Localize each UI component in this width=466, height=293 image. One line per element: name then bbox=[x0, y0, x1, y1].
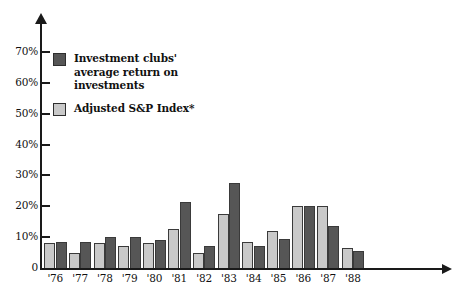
bar-sp-index bbox=[292, 206, 303, 268]
y-axis-label: 50% bbox=[2, 108, 38, 118]
y-axis-label-wrap: 40% bbox=[0, 139, 38, 149]
legend-item-investment-clubs: Investment clubs' average return on inve… bbox=[53, 52, 268, 93]
bar-sp-index bbox=[168, 229, 179, 268]
y-axis-label-wrap: 30% bbox=[0, 169, 38, 179]
bar-investment-clubs bbox=[229, 183, 240, 268]
bar-group bbox=[317, 22, 342, 268]
bar-investment-clubs bbox=[105, 237, 116, 268]
bar-group bbox=[342, 22, 367, 268]
bar-group bbox=[292, 22, 317, 268]
bar-chart: 70%60%50%40%30%20%10%0 '76'77'78'79'80'8… bbox=[0, 0, 466, 293]
bar-sp-index bbox=[118, 246, 129, 268]
legend-item-sp-index: Adjusted S&P Index* bbox=[53, 102, 268, 116]
y-axis-label: 30% bbox=[2, 169, 38, 179]
bar-investment-clubs bbox=[279, 239, 290, 268]
bar-investment-clubs bbox=[353, 251, 364, 268]
y-axis-label-wrap: 10% bbox=[0, 231, 38, 241]
legend: Investment clubs' average return on inve… bbox=[53, 52, 268, 125]
bar-sp-index bbox=[342, 248, 353, 268]
bar-sp-index bbox=[94, 243, 105, 268]
y-axis-label: 40% bbox=[2, 139, 38, 149]
bar-investment-clubs bbox=[204, 246, 215, 268]
bar-investment-clubs bbox=[304, 206, 315, 268]
legend-swatch-light-icon bbox=[53, 103, 66, 116]
y-axis-label-wrap: 20% bbox=[0, 200, 38, 210]
bar-sp-index bbox=[242, 242, 253, 268]
bar-investment-clubs bbox=[328, 226, 339, 268]
legend-swatch-dark-icon bbox=[53, 53, 66, 66]
bar-investment-clubs bbox=[130, 237, 141, 268]
y-axis-label-wrap: 50% bbox=[0, 108, 38, 118]
bar-group bbox=[267, 22, 292, 268]
bar-sp-index bbox=[193, 253, 204, 268]
bar-sp-index bbox=[317, 206, 328, 268]
y-axis-label: 20% bbox=[2, 200, 38, 210]
bar-sp-index bbox=[218, 214, 229, 268]
y-axis-label-wrap: 0 bbox=[0, 262, 38, 272]
bar-investment-clubs bbox=[155, 240, 166, 268]
bar-sp-index bbox=[267, 231, 278, 268]
y-axis-label: 60% bbox=[2, 77, 38, 87]
legend-label-sp-index: Adjusted S&P Index* bbox=[74, 102, 194, 116]
y-axis-label-wrap: 70% bbox=[0, 46, 38, 56]
legend-label-investment-clubs: Investment clubs' average return on inve… bbox=[74, 52, 178, 93]
bar-investment-clubs bbox=[254, 246, 265, 268]
y-axis-label: 70% bbox=[2, 46, 38, 56]
bar-sp-index bbox=[143, 243, 154, 268]
bar-investment-clubs bbox=[180, 202, 191, 268]
bar-sp-index bbox=[69, 253, 80, 268]
y-axis-label-wrap: 60% bbox=[0, 77, 38, 87]
x-axis-line bbox=[40, 268, 444, 270]
bar-sp-index bbox=[44, 243, 55, 268]
bar-investment-clubs bbox=[80, 242, 91, 268]
x-axis-label: '88 bbox=[336, 273, 371, 284]
y-axis-label: 0 bbox=[2, 262, 38, 272]
y-axis-label: 10% bbox=[2, 231, 38, 241]
bar-investment-clubs bbox=[56, 242, 67, 268]
